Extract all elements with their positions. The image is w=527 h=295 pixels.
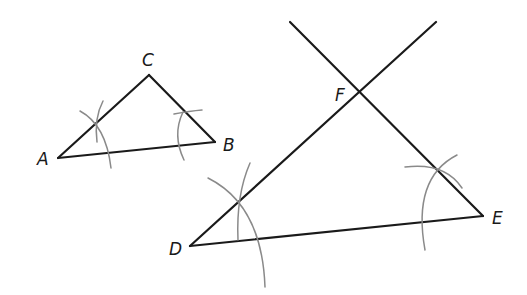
arcs-at-b — [174, 110, 202, 160]
arc-a-main — [80, 111, 111, 168]
arcs-at-d — [208, 163, 265, 287]
arc-d-main — [208, 178, 265, 287]
segment-ab — [58, 142, 215, 158]
label-e: E — [492, 208, 503, 228]
segment-de — [190, 216, 483, 246]
triangle-abc — [58, 75, 215, 158]
ray-df-extended — [190, 22, 436, 246]
ray-ef-extended — [290, 22, 483, 216]
label-b: B — [223, 135, 235, 155]
arc-b-main — [178, 112, 184, 160]
label-c: C — [142, 50, 154, 70]
label-d: D — [169, 239, 182, 259]
label-a: A — [36, 149, 49, 169]
arcs-at-e — [405, 155, 462, 250]
geometry-construction-figure: A B C D E F — [0, 0, 527, 295]
label-f: F — [335, 85, 345, 105]
segment-ac — [58, 75, 149, 158]
arc-d-cross — [238, 163, 250, 240]
triangle-def — [190, 22, 483, 246]
segment-cb — [149, 75, 215, 142]
